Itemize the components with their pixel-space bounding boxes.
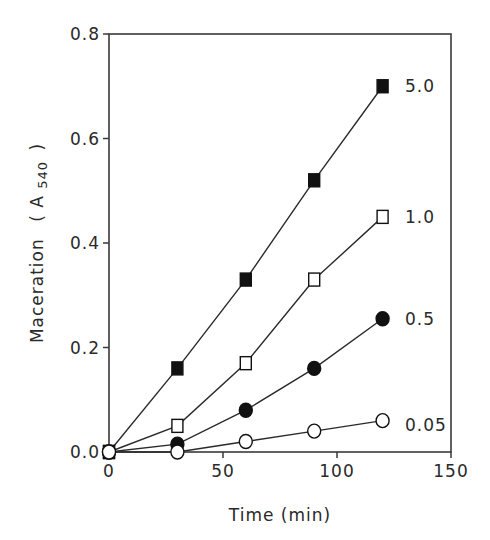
y-tick-label: 0.6 xyxy=(70,129,100,149)
open-square-marker xyxy=(172,419,183,432)
series-label: 5.0 xyxy=(405,76,435,96)
y-axis-label-main: Maceration xyxy=(27,238,47,343)
y-tick-label: 0.0 xyxy=(70,442,100,462)
data-series xyxy=(103,80,390,459)
series-1-0 xyxy=(104,210,389,458)
x-tick-label: 150 xyxy=(433,461,468,481)
y-axis-label-unit-suffix: ) xyxy=(27,143,47,151)
x-tick-label: 50 xyxy=(211,461,235,481)
open-circle-marker xyxy=(103,445,116,459)
filled-circle-marker xyxy=(239,403,252,417)
y-tick-label: 0.2 xyxy=(70,338,100,358)
x-tick-label: 100 xyxy=(319,461,354,481)
series-line xyxy=(109,319,383,452)
filled-square-marker xyxy=(172,362,183,375)
filled-square-marker xyxy=(377,80,388,93)
maceration-time-chart: 0.00.20.40.60.8 050100150 5.01.00.50.05 … xyxy=(0,0,490,540)
filled-circle-marker xyxy=(376,312,389,326)
y-tick-label: 0.4 xyxy=(70,233,100,253)
open-square-marker xyxy=(377,210,388,223)
y-tick-label: 0.8 xyxy=(70,24,100,44)
series-label: 0.05 xyxy=(405,415,447,435)
open-square-marker xyxy=(309,273,320,286)
open-square-marker xyxy=(240,357,251,370)
open-circle-marker xyxy=(239,435,252,449)
series-5-0 xyxy=(104,80,389,459)
y-axis-label: Maceration ( A 540 ) xyxy=(27,143,51,343)
x-tick-label: 0 xyxy=(103,461,115,481)
filled-square-marker xyxy=(240,273,251,286)
x-axis-ticks: 050100150 xyxy=(103,452,469,481)
open-circle-marker xyxy=(376,414,389,428)
svg-text:Maceration ( A 540: Maceration ( A 540 ) xyxy=(27,143,51,343)
series-label: 1.0 xyxy=(405,207,435,227)
filled-square-marker xyxy=(309,174,320,187)
series-line xyxy=(109,86,383,452)
y-axis-ticks: 0.00.20.40.60.8 xyxy=(70,24,109,462)
x-axis-label: Time (min) xyxy=(228,505,331,525)
y-axis-label-unit-sub: 540 xyxy=(35,161,50,189)
y-axis-label-unit-prefix: ( A xyxy=(27,195,47,222)
open-circle-marker xyxy=(171,445,184,459)
series-label: 0.5 xyxy=(405,309,435,329)
open-circle-marker xyxy=(308,424,321,438)
filled-circle-marker xyxy=(308,361,321,375)
series-labels: 5.01.00.50.05 xyxy=(405,76,447,434)
